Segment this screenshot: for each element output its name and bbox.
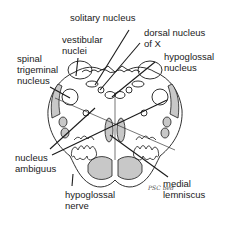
label-nucleus-ambiguus-line2: ambiguus bbox=[15, 163, 56, 174]
label-dorsal-nucleus-x-line2: of X bbox=[144, 38, 161, 49]
label-medial-lemniscus-line1: medial bbox=[163, 178, 191, 189]
label-medial-lemniscus-line2: lemniscus bbox=[163, 189, 205, 200]
label-vestibular-nuclei-line1: vestibular bbox=[62, 34, 103, 45]
label-hypoglossal-nerve-line1: hypoglossal bbox=[65, 189, 115, 200]
label-nucleus-ambiguus-line1: nucleus bbox=[15, 152, 48, 163]
label-spinal-trigeminal-line3: nucleus bbox=[17, 75, 50, 86]
label-vestibular-nuclei-line2: nuclei bbox=[62, 45, 87, 56]
label-hypoglossal-nucleus-line2: nucleus bbox=[164, 62, 197, 73]
label-solitary-nucleus: solitary nucleus bbox=[70, 12, 135, 23]
label-hypoglossal-nerve-line2: nerve bbox=[65, 200, 89, 211]
label-dorsal-nucleus-x-line1: dorsal nucleus bbox=[144, 27, 205, 38]
label-hypoglossal-nucleus-line1: hypoglossal bbox=[164, 51, 214, 62]
label-spinal-trigeminal-line2: trigeminal bbox=[17, 64, 58, 75]
label-spinal-trigeminal-line1: spinal bbox=[17, 53, 42, 64]
